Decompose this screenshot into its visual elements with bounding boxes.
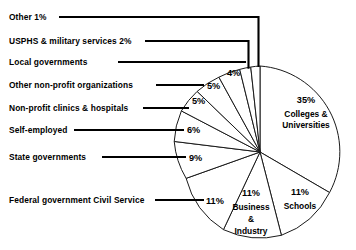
pie-chart-svg: Other 1% USPHS & military services 2% Lo… xyxy=(0,0,356,250)
label-business-industry-line1: Business xyxy=(232,202,270,212)
label-business-industry-line3: Industry xyxy=(234,226,267,236)
label-other: Other 1% xyxy=(9,12,47,22)
label-local-governments: Local governments xyxy=(9,57,88,67)
label-state-governments: State governments xyxy=(9,152,86,162)
pct-business-industry: 11% xyxy=(242,188,260,198)
label-nonprofit-clinics-hospitals: Non-profit clinics & hospitals xyxy=(9,103,129,113)
pct-local-governments: 4% xyxy=(227,68,240,78)
pct-colleges-universities: 35% xyxy=(297,95,315,105)
category-labels: Other 1% USPHS & military services 2% Lo… xyxy=(9,12,145,205)
label-federal-government-civil-service: Federal government Civil Service xyxy=(9,195,145,205)
pie-slices xyxy=(174,66,340,238)
label-colleges-universities-line2: Universities xyxy=(282,120,330,130)
pct-federal-civil-service: 11% xyxy=(206,196,224,206)
label-business-industry-line2: & xyxy=(248,214,254,224)
leader-line-local-governments xyxy=(118,62,245,63)
pie-chart-figure: Other 1% USPHS & military services 2% Lo… xyxy=(0,0,356,250)
pct-self-employed: 6% xyxy=(187,125,200,135)
pct-other-nonprofit-organizations: 5% xyxy=(207,81,220,91)
label-schools: Schools xyxy=(284,201,317,211)
label-colleges-universities-line1: Colleges & xyxy=(284,109,327,119)
pct-schools: 11% xyxy=(291,187,309,197)
leader-line-usphs xyxy=(145,41,249,69)
pct-state-governments: 9% xyxy=(189,153,202,163)
label-self-employed: Self-employed xyxy=(9,125,68,135)
label-usphs-military-services: USPHS & military services 2% xyxy=(9,36,132,46)
label-other-nonprofit-organizations: Other non-profit organizations xyxy=(9,80,133,90)
pct-nonprofit-clinics-hospitals: 5% xyxy=(192,96,205,106)
